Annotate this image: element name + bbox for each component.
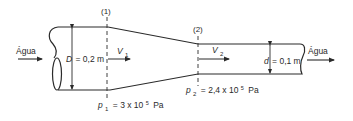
pipe-bottom-edge <box>58 74 300 90</box>
section-1-marker: (1) <box>101 7 111 16</box>
pressure-2-subscript: 2 <box>193 91 197 97</box>
diameter-D-label: D = 0,2 m <box>66 54 104 64</box>
pipe-inlet-cut <box>49 27 58 58</box>
velocity-1-label: V 1 <box>117 46 129 58</box>
diameter-d-label: d = 0,1 m <box>264 56 301 66</box>
section-2-marker: (2) <box>193 25 203 34</box>
venturi-pipe-diagram: Água Água (1) (2) D = 0,2 m d = 0,1 m V … <box>0 0 353 121</box>
diameter-d-symbol: d <box>264 56 269 66</box>
pressure-1-exponent: 5 <box>146 100 149 106</box>
pressure-1-subscript: 1 <box>105 106 109 112</box>
velocity-2-symbol: V <box>212 45 219 55</box>
pressure-2-symbol: p <box>185 85 191 95</box>
outlet-label: Água <box>308 46 328 56</box>
velocity-1-subscript: 1 <box>125 52 129 58</box>
pressure-1-label: p 1 = 3 x 10 5 Pa <box>97 97 164 113</box>
velocity-1-symbol: V <box>117 46 124 56</box>
diameter-d-value: = 0,1 m <box>272 56 301 66</box>
pressure-1-symbol: p <box>97 100 103 110</box>
pressure-2-unit: Pa <box>248 85 259 95</box>
pressure-2-value: = 2,4 x 10 <box>201 85 239 95</box>
pressure-2-label: p 2 = 2,4 x 10 5 Pa <box>185 82 259 98</box>
pressure-1-unit: Pa <box>153 100 164 110</box>
pressure-1-value: = 3 x 10 <box>113 100 144 110</box>
pipe-outlet-cut <box>300 44 305 74</box>
diameter-D-value: = 0,2 m <box>76 54 105 64</box>
pressure-2-exponent: 5 <box>241 85 244 91</box>
diameter-D-symbol: D <box>66 54 72 64</box>
inlet-label: Água <box>16 46 36 56</box>
pipe-top-edge <box>58 27 300 44</box>
velocity-2-label: V 2 <box>212 45 224 57</box>
velocity-2-subscript: 2 <box>220 51 224 57</box>
pipe-inlet-ellipse <box>53 58 62 90</box>
